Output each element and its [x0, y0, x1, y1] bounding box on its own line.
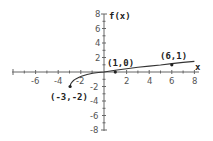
x-tick-label: -4: [54, 76, 62, 86]
y-tick-label: 6: [95, 24, 100, 34]
point-c-marker: [170, 63, 173, 66]
point-b-marker: [114, 70, 117, 73]
y-tick-label: 8: [95, 9, 100, 19]
x-tick-label: -6: [31, 76, 39, 86]
x-tick-label: 2: [124, 76, 129, 86]
y-axis-label: f(x): [109, 11, 131, 21]
y-tick-label: 2: [95, 53, 100, 63]
x-tick-label: 8: [192, 76, 197, 86]
point-a-label: (-3,-2): [50, 92, 88, 102]
y-tick-label: -2: [90, 82, 98, 92]
x-tick-label: 6: [169, 76, 174, 86]
x-tick-label: -2: [76, 76, 84, 86]
point-b-label: (1,0): [107, 58, 134, 68]
function-graph: -6 -4 -2 2 4 6 8 8 6 4 2 -2 -4 -6 -8 f(x…: [0, 0, 213, 141]
y-tick-label: 4: [95, 38, 100, 48]
y-tick-label: -4: [90, 96, 98, 106]
x-axis-label: x: [195, 62, 201, 72]
point-a-marker: [69, 85, 72, 88]
x-tick-label: 4: [147, 76, 152, 86]
y-tick-label: -6: [90, 111, 98, 121]
point-c-label: (6,1): [160, 51, 187, 61]
y-tick-label: -8: [90, 125, 98, 135]
